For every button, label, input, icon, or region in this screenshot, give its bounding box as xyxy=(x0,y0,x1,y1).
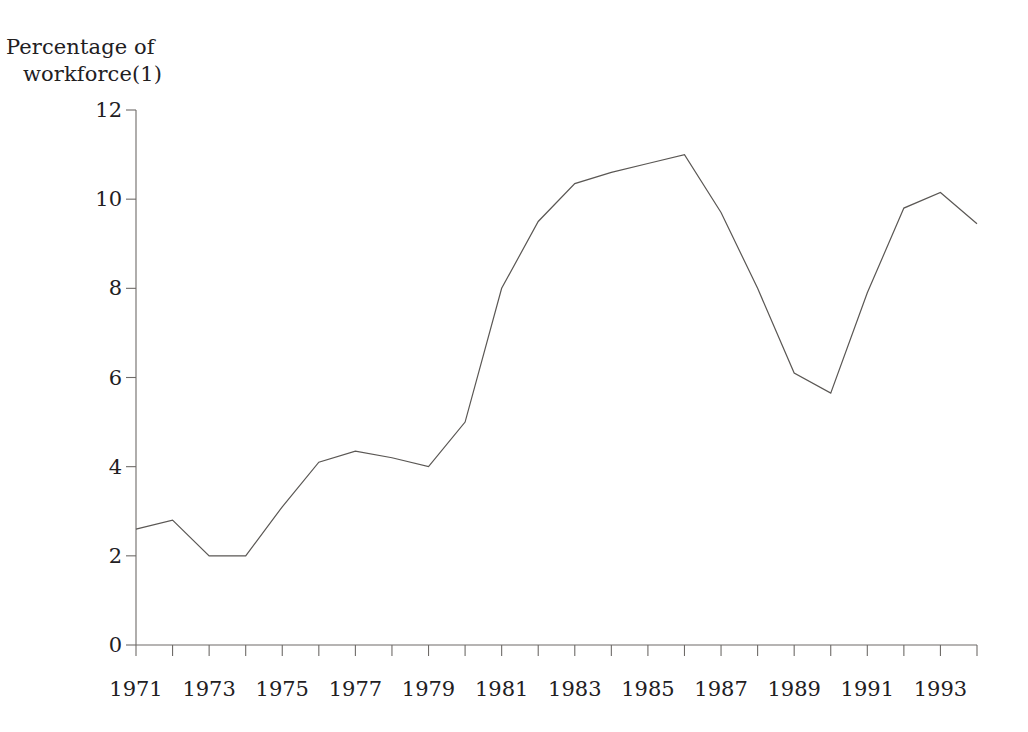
x-axis-tick-label: 1987 xyxy=(694,677,747,701)
x-axis-tick-label: 1977 xyxy=(329,677,382,701)
x-axis-tick-label: 1979 xyxy=(402,677,455,701)
x-axis-tick-label: 1973 xyxy=(182,677,235,701)
data-series-line xyxy=(136,155,977,556)
x-axis-tick-label: 1981 xyxy=(475,677,528,701)
y-axis-tick-label: 0 xyxy=(60,633,122,657)
x-axis-tick-label: 1989 xyxy=(767,677,820,701)
y-axis-tick-label: 4 xyxy=(60,455,122,479)
x-axis-tick-label: 1983 xyxy=(548,677,601,701)
y-axis-ticks xyxy=(126,110,136,645)
y-axis-tick-label: 8 xyxy=(60,276,122,300)
chart-figure: Percentage ofworkforce(1) 024681012 1971… xyxy=(0,0,1028,732)
y-axis-tick-label: 6 xyxy=(60,366,122,390)
x-axis-tick-label: 1993 xyxy=(914,677,967,701)
y-axis-tick-label: 2 xyxy=(60,544,122,568)
x-axis-tick-label: 1985 xyxy=(621,677,674,701)
x-axis-tick-label: 1975 xyxy=(256,677,309,701)
y-axis-tick-label: 10 xyxy=(60,187,122,211)
y-axis-tick-label: 12 xyxy=(60,98,122,122)
x-axis-tick-label: 1971 xyxy=(109,677,162,701)
x-axis-tick-label: 1991 xyxy=(841,677,894,701)
line-chart-plot xyxy=(0,0,1028,732)
axes-group xyxy=(136,110,977,645)
x-axis-ticks xyxy=(136,645,977,656)
